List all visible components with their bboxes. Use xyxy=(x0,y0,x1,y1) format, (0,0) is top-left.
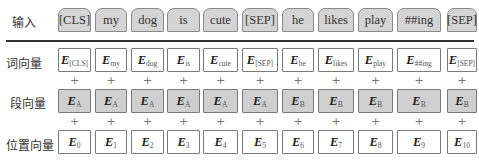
embedding-symbol: E xyxy=(330,135,338,150)
plus-sign: + xyxy=(366,74,386,87)
embedding-symbol: E xyxy=(291,94,299,109)
plus-sign: + xyxy=(65,74,85,87)
input-token: [SEP] xyxy=(242,8,278,32)
embedding-subscript: cute xyxy=(218,59,231,68)
token-embedding-box: E[SEP] xyxy=(242,48,278,72)
embedding-symbol: E xyxy=(413,135,421,150)
plus-sign: + xyxy=(101,74,121,87)
segment-embedding-box: EA xyxy=(167,89,200,113)
position-embedding-box: E2 xyxy=(131,130,164,154)
segment-embedding-row-label: 段向量 xyxy=(10,94,46,111)
segment-embedding-box: EB xyxy=(397,89,441,113)
embedding-subscript: my xyxy=(110,59,120,68)
embedding-symbol: E xyxy=(104,94,112,109)
embedding-subscript: 10 xyxy=(462,141,470,150)
embedding-subscript: A xyxy=(112,100,117,109)
embedding-subscript: A xyxy=(149,100,154,109)
embedding-subscript: 2 xyxy=(150,141,154,150)
embedding-symbol: E xyxy=(369,94,377,109)
embedding-symbol: E xyxy=(214,135,222,150)
plus-sign: + xyxy=(65,115,85,128)
plus-sign: + xyxy=(326,74,346,87)
input-row-label: 输入 xyxy=(12,13,36,30)
embedding-symbol: E xyxy=(254,135,262,150)
plus-sign: + xyxy=(452,74,472,87)
token-embedding-box: Emy xyxy=(95,48,127,72)
plus-sign: + xyxy=(138,74,158,87)
embedding-symbol: E xyxy=(455,94,463,109)
segment-embedding-box: EB xyxy=(318,89,354,113)
embedding-symbol: E xyxy=(247,53,255,68)
plus-sign: + xyxy=(174,115,194,128)
embedding-symbol: E xyxy=(177,94,185,109)
segment-embedding-box: EA xyxy=(95,89,127,113)
embedding-subscript: A xyxy=(185,100,190,109)
embedding-subscript: is xyxy=(185,59,190,68)
plus-sign: + xyxy=(288,115,308,128)
token-embedding-box: Eis xyxy=(167,48,200,72)
embedding-symbol: E xyxy=(177,135,185,150)
embedding-subscript: [SEP] xyxy=(255,59,273,68)
position-embedding-box: E3 xyxy=(167,130,200,154)
segment-embedding-box: EB xyxy=(358,89,393,113)
divider-line xyxy=(6,40,474,42)
token-embedding-box: Ehe xyxy=(282,48,314,72)
embedding-symbol: E xyxy=(406,53,414,68)
embedding-subscript: B xyxy=(300,100,305,109)
embedding-symbol: E xyxy=(292,135,300,150)
embedding-symbol: E xyxy=(369,135,377,150)
embedding-symbol: E xyxy=(329,94,337,109)
plus-sign: + xyxy=(326,115,346,128)
embedding-subscript: 9 xyxy=(421,141,425,150)
segment-embedding-box: EA xyxy=(203,89,238,113)
embedding-symbol: E xyxy=(102,53,110,68)
embedding-subscript: 3 xyxy=(186,141,190,150)
embedding-subscript: [CLS] xyxy=(69,59,88,68)
position-embedding-box: E8 xyxy=(358,130,393,154)
plus-sign: + xyxy=(250,115,270,128)
embedding-symbol: E xyxy=(141,135,149,150)
embedding-symbol: E xyxy=(61,53,69,68)
token-embedding-box: Eplay xyxy=(358,48,393,72)
segment-embedding-box: EB xyxy=(447,89,477,113)
embedding-symbol: E xyxy=(214,94,222,109)
plus-sign: + xyxy=(211,74,231,87)
input-token: likes xyxy=(318,8,354,32)
plus-sign: + xyxy=(211,115,231,128)
segment-embedding-box: EA xyxy=(242,89,278,113)
embedding-subscript: A xyxy=(76,100,81,109)
embedding-subscript: 1 xyxy=(113,141,117,150)
position-embedding-row-label: 位置向量 xyxy=(6,136,54,153)
embedding-subscript: 8 xyxy=(378,141,382,150)
token-embedding-box: Ecute xyxy=(203,48,238,72)
input-token: dog xyxy=(131,8,164,32)
input-token: is xyxy=(167,8,200,32)
embedding-subscript: B xyxy=(377,100,382,109)
segment-embedding-box: EA xyxy=(131,89,164,113)
token-embedding-box: Elikes xyxy=(318,48,354,72)
embedding-symbol: E xyxy=(253,94,261,109)
position-embedding-box: E9 xyxy=(397,130,441,154)
embedding-subscript: B xyxy=(421,100,426,109)
embedding-subscript: dog xyxy=(146,59,157,68)
embedding-subscript: 0 xyxy=(77,141,81,150)
embedding-symbol: E xyxy=(210,53,218,68)
input-token: play xyxy=(358,8,393,32)
embedding-symbol: E xyxy=(290,53,298,68)
plus-sign: + xyxy=(288,74,308,87)
embedding-symbol: E xyxy=(177,53,185,68)
position-embedding-box: E5 xyxy=(242,130,278,154)
segment-embedding-box: EB xyxy=(282,89,314,113)
embedding-subscript: 7 xyxy=(338,141,342,150)
token-embedding-box: E[SEP] xyxy=(447,48,477,72)
embedding-subscript: A xyxy=(222,100,227,109)
embedding-subscript: 6 xyxy=(300,141,304,150)
token-embedding-row-label: 词向量 xyxy=(6,54,42,71)
embedding-symbol: E xyxy=(365,53,373,68)
embedding-subscript: B xyxy=(464,100,469,109)
embedding-symbol: E xyxy=(105,135,113,150)
input-token: cute xyxy=(203,8,238,32)
embedding-symbol: E xyxy=(449,53,457,68)
input-token: [SEP] xyxy=(447,8,477,32)
token-embedding-box: E[CLS] xyxy=(58,48,91,72)
